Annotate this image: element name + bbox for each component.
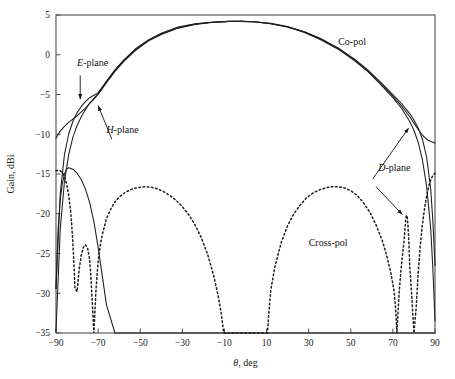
h-plane-arrow-head <box>98 106 102 112</box>
x-tick-label: −90 <box>49 338 64 348</box>
x-tick-label: 50 <box>346 338 356 348</box>
annotations-group: Co-polCross-polE-planeH-planeD-plane <box>76 36 411 247</box>
radiation-pattern-chart: −90−70−50−30−10103050709050−5−10−15−20−2… <box>0 0 455 379</box>
e-plane-label: E-plane <box>76 57 109 68</box>
series-co-pol-e-plane-1 <box>56 21 435 288</box>
x-tick-label: −70 <box>91 338 106 348</box>
y-tick-label: −20 <box>35 209 50 219</box>
y-tick-label: 5 <box>45 10 50 20</box>
x-tick-label: 10 <box>262 338 272 348</box>
y-tick-label: 0 <box>45 50 50 60</box>
h-plane-arrow <box>98 106 112 139</box>
y-tick-label: −25 <box>35 249 50 259</box>
co-pol-label: Co-pol <box>338 36 366 47</box>
axes-group: −90−70−50−30−10103050709050−5−10−15−20−2… <box>5 10 440 368</box>
d-plane-label: D-plane <box>377 162 411 173</box>
x-tick-label: −10 <box>217 338 232 348</box>
x-tick-label: 90 <box>430 338 440 348</box>
series-co-pol-h-plane-2 <box>56 21 435 331</box>
curves-group <box>56 21 435 333</box>
y-tick-label: −30 <box>35 289 50 299</box>
x-axis-title: θ, deg <box>233 357 257 368</box>
y-tick-label: −5 <box>40 90 50 100</box>
y-tick-label: −15 <box>35 169 50 179</box>
y-tick-label: −10 <box>35 130 50 140</box>
x-tick-label: 30 <box>304 338 314 348</box>
y-axis-title: Gain, dBi <box>5 154 16 193</box>
y-tick-label: −35 <box>35 328 50 338</box>
plot-frame <box>56 15 435 333</box>
x-tick-label: 70 <box>388 338 398 348</box>
h-plane-label: H-plane <box>106 124 140 135</box>
e-plane-arrow-head <box>78 94 82 99</box>
x-tick-label: −50 <box>133 338 148 348</box>
figure-container: −90−70−50−30−10103050709050−5−10−15−20−2… <box>0 0 455 379</box>
x-tick-label: −30 <box>175 338 190 348</box>
series-cross-pol-d-plane-4 <box>56 170 435 333</box>
d-plane-arrow-upper-head <box>404 128 409 133</box>
d-plane-arrow-lower <box>376 187 402 215</box>
cross-pol-label: Cross-pol <box>309 237 348 248</box>
series-co-pol-e-plane-0 <box>56 168 435 333</box>
